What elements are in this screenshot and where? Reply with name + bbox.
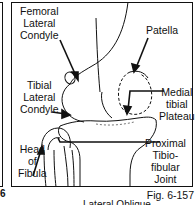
label-line: Condyle: [20, 103, 59, 115]
label-line: Head: [18, 143, 47, 155]
label-line: Femoral: [20, 5, 59, 17]
figure-caption: Lateral Oblique: [83, 199, 151, 205]
label-line: Proximal: [145, 137, 186, 149]
label-line: Tibio-: [145, 149, 186, 161]
previous-figure-number: 6: [0, 188, 6, 199]
label-line: Lateral: [20, 17, 59, 29]
label-line: fibular: [145, 161, 186, 173]
label-line: Joint: [145, 173, 186, 185]
label-tibial-lateral-condyle: Tibial Lateral Condyle: [20, 79, 59, 115]
label-line: Lateral: [20, 91, 59, 103]
label-line: Patella: [146, 24, 178, 36]
label-head-of-fibula: Head of Fibula: [18, 143, 47, 179]
label-line: Medial: [159, 86, 195, 98]
label-patella: Patella: [146, 24, 178, 36]
label-line: Condyle: [20, 29, 59, 41]
label-line: of: [18, 155, 47, 167]
label-femoral-lateral-condyle: Femoral Lateral Condyle: [20, 5, 59, 41]
label-medial-tibial-plateau: Medial tibial Plateau: [159, 86, 195, 122]
label-line: Plateau: [159, 110, 195, 122]
label-proximal-tibiofibular-joint: Proximal Tibio- fibular Joint: [145, 137, 186, 185]
label-line: Fibula: [18, 167, 47, 179]
figure-number: Fig. 6-157: [147, 189, 194, 201]
label-line: Tibial: [20, 79, 59, 91]
label-line: tibial: [159, 98, 195, 110]
